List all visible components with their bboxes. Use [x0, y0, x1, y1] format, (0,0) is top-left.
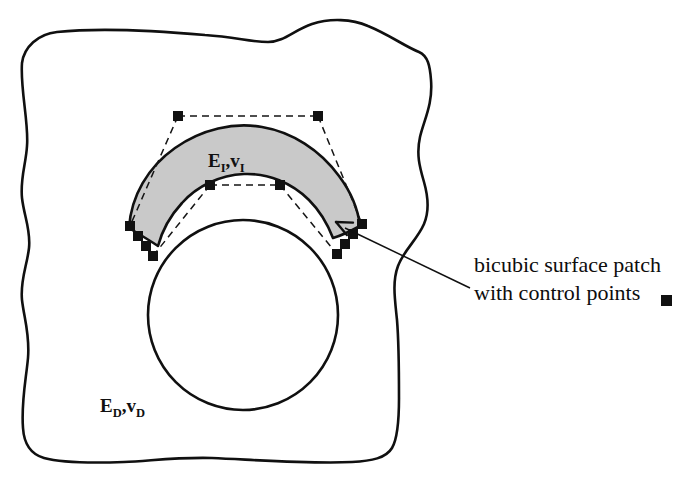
legend-control-point-marker-icon — [661, 295, 672, 306]
caption-line-2: with control points — [474, 280, 640, 305]
domain-E-subscript: D — [113, 406, 122, 420]
domain-v-subscript: D — [136, 406, 145, 420]
cp-right-3-marker — [340, 239, 350, 249]
cp-top-left-marker — [173, 111, 183, 121]
domain-E: E — [100, 395, 113, 416]
arrowhead-stroke — [336, 222, 353, 223]
cp-left-2-marker — [133, 231, 143, 241]
cp-mid-right-marker — [275, 180, 285, 190]
cp-top-right-marker — [313, 111, 323, 121]
interphase-v: v — [230, 150, 240, 171]
cp-mid-left-marker — [205, 180, 215, 190]
cp-right-1-marker — [357, 219, 367, 229]
inclusion-circle — [148, 220, 338, 410]
cp-left-3-marker — [141, 241, 151, 251]
figure-root: EI,vI ED,vD bicubic surface patch with c… — [0, 0, 700, 491]
interphase-v-subscript: I — [240, 161, 245, 175]
interphase-E: E — [208, 150, 221, 171]
cp-left-1-marker — [125, 221, 135, 231]
diagram-canvas: EI,vI ED,vD bicubic surface patch with c… — [0, 0, 700, 491]
domain-v: v — [127, 395, 137, 416]
cp-right-4-marker — [332, 249, 342, 259]
cp-left-4-marker — [148, 251, 158, 261]
caption-line-1: bicubic surface patch — [474, 252, 661, 277]
